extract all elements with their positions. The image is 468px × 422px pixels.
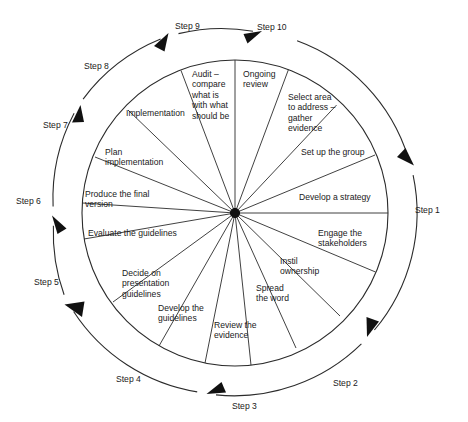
- segment-label-engage-stakeholders: Engage the stakeholders: [318, 228, 367, 249]
- step-label-4: Step 4: [116, 374, 141, 384]
- step-label-8: Step 8: [84, 61, 109, 71]
- step-4-arrowhead: [52, 216, 67, 235]
- hub-dot: [230, 208, 239, 217]
- step-3-arrowhead: [65, 302, 85, 318]
- step-label-9: Step 9: [175, 21, 200, 31]
- segment-label-audit-compare: Audit – compare what is with what should…: [192, 69, 229, 121]
- segment-label-instil-ownership: Instil ownership: [280, 256, 319, 277]
- step-label-7: Step 7: [43, 120, 68, 130]
- step-label-10: Step 10: [257, 22, 287, 32]
- step-10-arrowhead: [397, 148, 414, 166]
- step-6-arrowhead: [154, 33, 169, 52]
- segment-label-select-area: Select area to address – gather evidence: [288, 92, 335, 134]
- segment-label-plan-implementation: Plan implementation: [105, 147, 163, 168]
- step-label-2: Step 2: [333, 378, 358, 388]
- segment-label-implementation: Implementation: [126, 108, 185, 118]
- segment-label-review-the-evidence: Review the evidence: [214, 320, 257, 341]
- segment-label-produce-final-version: Produce the final version: [85, 189, 150, 210]
- segment-label-evaluate-guidelines: Evaluate the guidelines: [88, 228, 177, 238]
- step-label-5: Step 5: [34, 277, 59, 287]
- segment-label-ongoing-review: Ongoing review: [243, 69, 276, 90]
- step-label-1: Step 1: [415, 205, 440, 215]
- step-label-3: Step 3: [232, 401, 257, 411]
- segment-label-set-up-the-group: Set up the group: [301, 147, 365, 157]
- step-label-6: Step 6: [16, 196, 41, 206]
- segment-label-decide-presentation: Decide on presentation guidelines: [122, 268, 169, 299]
- cycle-diagram: Ongoing review Select area to address – …: [0, 0, 468, 422]
- segment-label-develop-a-strategy: Develop a strategy: [299, 192, 371, 202]
- step-9-arrowhead: [244, 31, 263, 44]
- step-2-arrowhead: [207, 382, 227, 394]
- segment-label-develop-the-guidelines: Develop the guidelines: [158, 303, 204, 324]
- segment-label-spread-the-word: Spread the word: [256, 283, 289, 304]
- cycle-wheel-graphic: [0, 0, 468, 422]
